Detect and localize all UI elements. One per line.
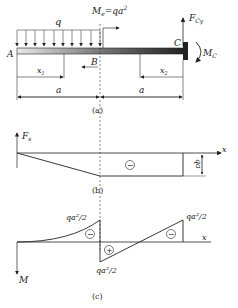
moment-label-b-left: qa²/2	[66, 213, 87, 222]
applied-moment-arrow	[103, 28, 119, 48]
shear-axis-y-label: Fs	[21, 131, 31, 142]
moment-label-b-right: qa²/2	[96, 266, 117, 275]
dim-a-right-label: a	[139, 85, 144, 95]
shear-axis-x-label: x	[222, 145, 227, 154]
applied-moment-label: Me=qa2	[91, 4, 127, 17]
point-a-label: A	[6, 49, 14, 59]
dim-a-left-label: a	[56, 85, 61, 95]
figure-c-moment-diagram: x M qa²/2 qa²/2 qa²/2 − + − (c)	[17, 212, 211, 301]
figure-b-shear-diagram: Fs x qa − (b)	[17, 131, 227, 195]
caption-b: (b)	[92, 186, 103, 195]
shear-magnitude-label: qa	[194, 159, 203, 169]
caption-c: (c)	[92, 292, 103, 301]
fixed-support	[183, 42, 188, 60]
dim-x2	[140, 54, 183, 100]
moment-label-c: qa²/2	[186, 212, 207, 221]
moment-curve	[17, 220, 183, 262]
figure-a: q Me=qa2 FCy MC A B C x1	[6, 4, 217, 115]
point-c-label: C	[174, 38, 181, 48]
dim-x2-label: x2	[160, 66, 168, 76]
reaction-moment-label: MC	[202, 48, 217, 59]
beam-diagram: q Me=qa2 FCy MC A B C x1	[0, 0, 238, 308]
moment-axis-y-label: M	[18, 275, 29, 285]
moment-sign-right: −	[168, 230, 175, 239]
reaction-force-label: FCy	[188, 13, 204, 25]
moment-sign-left: −	[87, 230, 94, 239]
point-b-label: B	[90, 57, 98, 67]
shear-sign: −	[127, 161, 134, 170]
reaction-moment-arrow	[196, 42, 201, 62]
dim-x1-label: x1	[37, 66, 45, 76]
moment-sign-mid: +	[106, 246, 113, 255]
caption-a: (a)	[92, 106, 103, 115]
moment-axis-x-label: x	[202, 233, 207, 242]
distributed-load	[17, 30, 100, 46]
load-label: q	[55, 16, 61, 27]
